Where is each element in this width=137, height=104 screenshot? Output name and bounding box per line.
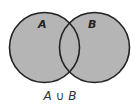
set-b-label: B [88,18,96,31]
set-a-label: A [38,18,47,31]
caption: A ∪ B [0,89,120,103]
